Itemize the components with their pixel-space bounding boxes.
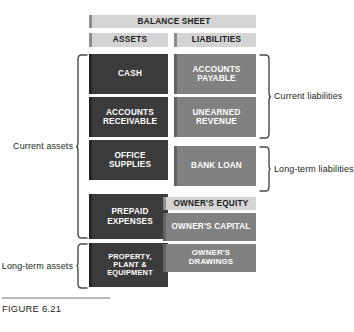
balance-sheet-title-bar: BALANCE SHEET (89, 15, 256, 28)
asset-box-cash-label: CASH (115, 69, 145, 78)
current-assets-label: Current assets (0, 141, 73, 151)
owners-equity-header-label: OWNER'S EQUITY (170, 199, 251, 208)
equity-box-owners-drawings: OWNER'S DRAWINGS (163, 244, 256, 272)
asset-box-property-plant-equipment: PROPERTY, PLANT & EQUIPMENT (89, 243, 168, 287)
long-term-liabilities-bracket (259, 146, 271, 192)
current-liabilities-label: Current liabilities (274, 91, 342, 101)
balance-sheet-title-label: BALANCE SHEET (135, 17, 214, 26)
liability-box-accounts-payable-label: ACCOUNTS PAYABLE (190, 65, 244, 83)
equity-box-owners-drawings-label: OWNER'S DRAWINGS (166, 249, 256, 266)
asset-box-cash: CASH (89, 54, 168, 94)
liabilities-column-header: LIABILITIES (174, 33, 256, 47)
current-assets-bracket (76, 54, 88, 239)
figure-caption: FIGURE 6.21 (2, 303, 61, 314)
owners-equity-header: OWNER'S EQUITY (163, 197, 256, 210)
asset-box-accounts-receivable: ACCOUNTS RECEIVABLE (89, 97, 168, 137)
figure-caption-rule (2, 297, 110, 299)
liability-box-unearned-revenue: UNEARNED REVENUE (174, 97, 256, 137)
liability-box-unearned-revenue-label: UNEARNED REVENUE (190, 108, 244, 126)
long-term-assets-bracket (76, 243, 88, 289)
liability-box-bank-loan-label: BANK LOAN (188, 161, 245, 170)
liability-box-accounts-payable: ACCOUNTS PAYABLE (174, 54, 256, 94)
liabilities-column-header-label: LIABILITIES (189, 35, 245, 44)
asset-box-office-supplies: OFFICE SUPPLIES (89, 140, 168, 180)
long-term-assets-label: Long-term assets (0, 261, 73, 271)
long-term-liabilities-label: Long-term liabilities (274, 164, 354, 174)
asset-box-property-plant-equipment-label: PROPERTY, PLANT & EQUIPMENT (92, 253, 168, 278)
asset-box-prepaid-expenses-label: PREPAID EXPENSES (104, 207, 156, 225)
equity-box-owners-capital-label: OWNER'S CAPITAL (169, 222, 254, 231)
equity-box-owners-capital: OWNER'S CAPITAL (163, 213, 256, 241)
asset-box-accounts-receivable-label: ACCOUNTS RECEIVABLE (100, 108, 160, 126)
asset-box-prepaid-expenses: PREPAID EXPENSES (89, 194, 168, 239)
liability-box-bank-loan: BANK LOAN (174, 146, 256, 186)
assets-column-header-label: ASSETS (110, 35, 150, 44)
asset-box-office-supplies-label: OFFICE SUPPLIES (106, 151, 154, 169)
assets-column-header: ASSETS (89, 33, 168, 47)
current-liabilities-bracket (259, 54, 271, 139)
